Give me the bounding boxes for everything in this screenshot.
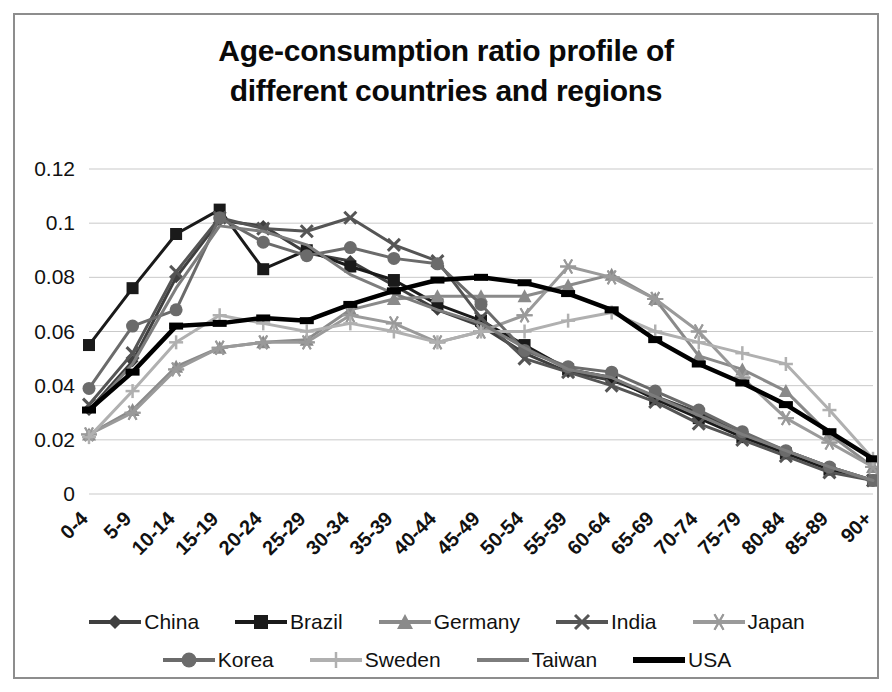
legend-label: Korea: [218, 648, 274, 672]
y-tick-label: 0.02: [34, 428, 75, 451]
x-tick-label: 60-64: [563, 507, 615, 559]
data-point-marker: [430, 277, 444, 284]
x-tick-label: 85-89: [781, 507, 833, 559]
data-point-marker: [475, 298, 488, 311]
x-tick-label: 5-9: [99, 507, 135, 543]
y-tick-label: 0.12: [34, 157, 75, 180]
legend-row-1: ChinaBrazilGermanyIndiaJapan: [15, 603, 877, 641]
data-point-marker: [257, 263, 269, 275]
legend-item-taiwan[interactable]: Taiwan: [475, 648, 597, 672]
data-point-marker: [343, 301, 357, 308]
series-brazil: [83, 204, 877, 487]
data-point-marker: [256, 314, 270, 321]
chart-container: Age-consumption ratio profile of differe…: [13, 13, 879, 679]
legend-row-2: KoreaSwedenTaiwanUSA: [15, 641, 877, 679]
data-point-marker: [735, 379, 749, 386]
data-point-marker: [474, 274, 488, 281]
y-tick-label: 0.08: [34, 265, 75, 288]
data-point-marker: [300, 317, 314, 324]
data-point-marker: [518, 279, 532, 286]
data-point-marker: [213, 320, 227, 327]
x-tick-label: 50-54: [476, 507, 528, 559]
data-point-marker: [328, 652, 344, 668]
x-tick-label: 65-69: [606, 507, 658, 559]
data-point-marker: [83, 339, 95, 351]
y-axis-tick-labels: 00.020.040.060.080.10.12: [34, 157, 75, 505]
legend-marker-x-icon: [554, 610, 610, 634]
x-tick-label: 75-79: [693, 507, 745, 559]
data-point-marker: [126, 369, 140, 376]
data-point-marker: [83, 382, 96, 395]
data-point-marker: [866, 455, 877, 462]
line-chart-plot: 00.020.040.060.080.10.12 0-45-910-1415-1…: [15, 15, 877, 605]
x-tick-label: 40-44: [389, 507, 441, 559]
y-tick-label: 0: [63, 482, 75, 505]
legend-item-japan[interactable]: Japan: [691, 610, 805, 634]
data-point-marker: [170, 303, 183, 316]
legend-marker-square-icon: [233, 610, 289, 634]
y-tick-label: 0.1: [46, 211, 75, 234]
x-tick-label: 10-14: [127, 507, 179, 559]
data-point-marker: [254, 615, 268, 629]
legend-item-usa[interactable]: USA: [631, 648, 731, 672]
data-point-marker: [518, 325, 532, 339]
legend-label: Taiwan: [532, 648, 597, 672]
data-point-marker: [605, 306, 619, 313]
legend-item-china[interactable]: China: [87, 610, 199, 634]
x-tick-label: 30-34: [301, 507, 353, 559]
data-point-marker: [561, 290, 575, 297]
x-tick-label: 20-24: [214, 507, 266, 559]
data-point-marker: [692, 361, 706, 368]
data-point-marker: [387, 252, 400, 265]
legend-marker-line-icon: [631, 648, 687, 672]
data-point-marker: [387, 287, 401, 294]
x-axis-tick-labels: 0-45-910-1415-1920-2425-2930-3435-3940-4…: [56, 507, 876, 559]
legend-item-india[interactable]: India: [554, 610, 657, 634]
data-point-marker: [257, 236, 270, 249]
legend-marker-circle-icon: [161, 648, 217, 672]
data-point-marker: [648, 336, 662, 343]
legend-item-germany[interactable]: Germany: [377, 610, 520, 634]
data-point-marker: [779, 401, 793, 408]
legend-label: Sweden: [365, 648, 441, 672]
x-tick-label: 70-74: [650, 507, 702, 559]
x-tick-label: 35-39: [345, 507, 397, 559]
legend-item-brazil[interactable]: Brazil: [233, 610, 343, 634]
data-point-marker: [170, 228, 182, 240]
legend-label: China: [144, 610, 199, 634]
y-tick-label: 0.04: [34, 374, 75, 397]
data-point-marker: [561, 314, 575, 328]
data-point-marker: [213, 211, 226, 224]
x-tick-label: 25-29: [258, 507, 310, 559]
legend-label: USA: [688, 648, 731, 672]
data-point-marker: [388, 274, 400, 286]
data-point-marker: [822, 428, 836, 435]
data-point-marker: [82, 407, 96, 414]
legend-label: Brazil: [290, 610, 343, 634]
x-tick-label: 45-49: [432, 507, 484, 559]
legend-marker-line-icon: [475, 648, 531, 672]
legend-item-sweden[interactable]: Sweden: [308, 648, 441, 672]
data-point-marker: [126, 320, 139, 333]
legend-marker-star-icon: [691, 610, 747, 634]
data-point-marker: [430, 335, 444, 349]
legend-marker-triangle-icon: [377, 610, 433, 634]
x-tick-label: 90+: [836, 507, 876, 547]
legend-label: Germany: [434, 610, 520, 634]
legend-label: India: [611, 610, 657, 634]
chart-legend: ChinaBrazilGermanyIndiaJapanKoreaSwedenT…: [15, 603, 877, 679]
legend-marker-plus-icon: [308, 648, 364, 672]
x-tick-label: 55-59: [519, 507, 571, 559]
legend-label: Japan: [748, 610, 805, 634]
data-point-marker: [169, 323, 183, 330]
data-point-marker: [108, 615, 122, 629]
legend-marker-diamond-icon: [87, 610, 143, 634]
data-point-marker: [127, 282, 139, 294]
data-point-marker: [735, 346, 749, 360]
data-point-marker: [431, 257, 444, 270]
x-tick-label: 15-19: [171, 507, 223, 559]
y-tick-label: 0.06: [34, 320, 75, 343]
x-tick-label: 0-4: [56, 507, 93, 544]
legend-item-korea[interactable]: Korea: [161, 648, 274, 672]
x-tick-label: 80-84: [737, 507, 789, 559]
